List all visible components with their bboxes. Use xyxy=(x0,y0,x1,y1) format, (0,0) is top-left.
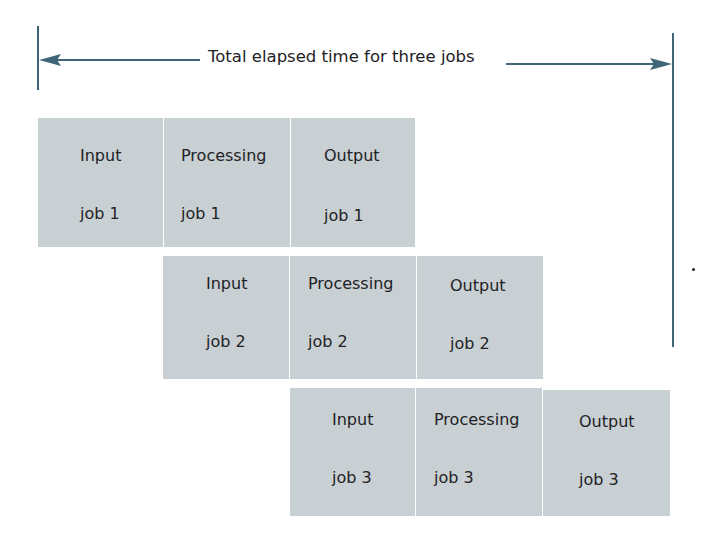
processing-job3-cell: Processing job 3 xyxy=(416,388,542,516)
job-label: job 1 xyxy=(324,206,364,225)
stage-label: Processing xyxy=(181,146,266,165)
stage-label: Processing xyxy=(434,410,519,429)
left-arrowhead-icon xyxy=(39,53,63,67)
right-arrow-shaft xyxy=(506,63,660,65)
stage-label: Output xyxy=(324,146,380,165)
stage-label: Input xyxy=(332,410,373,429)
job-label: job 1 xyxy=(181,204,221,223)
input-job1-cell: Input job 1 xyxy=(38,118,163,247)
stray-dot xyxy=(692,268,695,271)
processing-job2-cell: Processing job 2 xyxy=(290,256,416,379)
stage-label: Input xyxy=(206,274,247,293)
job-label: job 3 xyxy=(332,468,372,487)
job-label: job 2 xyxy=(308,332,348,351)
job-label: job 2 xyxy=(450,334,490,353)
job-label: job 1 xyxy=(80,204,120,223)
left-arrow-shaft xyxy=(50,59,200,61)
job-label: job 2 xyxy=(206,332,246,351)
input-job2-cell: Input job 2 xyxy=(163,256,289,379)
right-boundary-line xyxy=(672,33,674,347)
right-arrowhead-icon xyxy=(648,57,672,71)
output-job1-cell: Output job 1 xyxy=(291,118,415,247)
output-job3-cell: Output job 3 xyxy=(543,390,670,516)
elapsed-time-label: Total elapsed time for three jobs xyxy=(206,47,477,66)
processing-job1-cell: Processing job 1 xyxy=(164,118,290,247)
job-label: job 3 xyxy=(579,470,619,489)
stage-label: Output xyxy=(579,412,635,431)
stage-label: Processing xyxy=(308,274,393,293)
input-job3-cell: Input job 3 xyxy=(290,388,415,516)
job-label: job 3 xyxy=(434,468,474,487)
output-job2-cell: Output job 2 xyxy=(417,256,543,379)
stage-label: Input xyxy=(80,146,121,165)
stage-label: Output xyxy=(450,276,506,295)
